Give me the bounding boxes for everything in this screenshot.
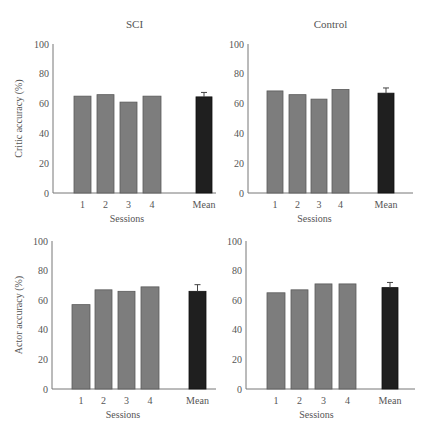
y-tick-label: 40 (38, 324, 48, 335)
figure: SCI0204060801001234MeanSessionsCritic ac… (0, 0, 432, 442)
x-tick-label: 3 (126, 199, 131, 210)
x-tick-label: 2 (101, 395, 106, 406)
y-tick-label: 100 (227, 236, 242, 247)
session-bar-4 (339, 284, 356, 389)
x-tick-label: 2 (297, 395, 302, 406)
session-bar-3 (315, 284, 332, 389)
x-tick-label: Mean (375, 199, 398, 210)
x-tick-label: 1 (80, 199, 85, 210)
mean-bar (189, 291, 206, 389)
chart-panel-bottom-left: 0204060801001234MeanSessionsActor accura… (13, 236, 216, 421)
y-tick-label: 20 (38, 354, 48, 365)
y-tick-label: 40 (234, 128, 244, 139)
x-tick-label: 1 (274, 395, 279, 406)
y-tick-label: 80 (38, 265, 48, 276)
x-tick-label: 4 (338, 199, 343, 210)
y-tick-label: 40 (39, 128, 49, 139)
x-tick-label: 1 (79, 395, 84, 406)
x-tick-label: Mean (193, 199, 216, 210)
y-tick-label: 60 (232, 295, 242, 306)
y-tick-label: 0 (237, 384, 242, 395)
y-tick-label: 40 (232, 324, 242, 335)
chart-canvas: SCI0204060801001234MeanSessionsCritic ac… (0, 0, 432, 442)
y-tick-label: 80 (39, 68, 49, 79)
y-tick-label: 80 (234, 68, 244, 79)
x-axis-title: Sessions (106, 409, 141, 420)
x-tick-label: 3 (321, 395, 326, 406)
mean-bar (378, 93, 394, 193)
session-bar-2 (291, 290, 308, 389)
session-bar-1 (267, 91, 283, 193)
y-tick-label: 80 (232, 265, 242, 276)
y-tick-label: 60 (39, 98, 49, 109)
y-tick-label: 100 (229, 39, 244, 50)
session-bar-3 (311, 99, 327, 193)
y-tick-label: 60 (38, 295, 48, 306)
session-bar-4 (332, 89, 349, 193)
y-tick-label: 60 (234, 98, 244, 109)
session-bar-1 (72, 305, 90, 389)
chart-panel-top-right: Control0204060801001234MeanSessions (229, 18, 413, 224)
y-tick-label: 0 (239, 188, 244, 199)
x-tick-label: 3 (317, 199, 322, 210)
mean-bar (382, 288, 398, 389)
chart-panel-top-left: SCI0204060801001234MeanSessionsCritic ac… (13, 18, 216, 224)
y-tick-label: 100 (34, 39, 49, 50)
y-tick-label: 20 (39, 158, 49, 169)
session-bar-3 (118, 291, 135, 389)
y-tick-label: 20 (234, 158, 244, 169)
x-tick-label: 4 (345, 395, 350, 406)
y-axis-title: Actor accuracy (%) (13, 276, 25, 354)
x-tick-label: 4 (148, 395, 153, 406)
x-tick-label: 2 (295, 199, 300, 210)
x-axis-title: Sessions (297, 213, 332, 224)
x-axis-title: Sessions (110, 213, 145, 224)
x-tick-label: Mean (186, 395, 209, 406)
session-bar-2 (95, 290, 112, 389)
chart-panel-bottom-right: 0204060801001234MeanSessions (227, 236, 415, 421)
x-tick-label: 2 (103, 199, 108, 210)
x-tick-label: 4 (150, 199, 155, 210)
panel-title: Control (314, 18, 348, 30)
y-tick-label: 0 (43, 384, 48, 395)
x-tick-label: Mean (379, 395, 402, 406)
session-bar-4 (143, 96, 161, 193)
panel-title: SCI (126, 18, 143, 30)
x-tick-label: 1 (273, 199, 278, 210)
session-bar-1 (74, 96, 91, 193)
y-tick-label: 100 (33, 236, 48, 247)
session-bar-2 (97, 95, 114, 193)
y-tick-label: 0 (44, 188, 49, 199)
y-axis-title: Critic accuracy (%) (13, 79, 25, 157)
x-axis-title: Sessions (299, 409, 334, 420)
session-bar-1 (267, 293, 285, 389)
y-tick-label: 20 (232, 354, 242, 365)
session-bar-3 (120, 102, 137, 193)
session-bar-2 (289, 95, 306, 193)
mean-bar (196, 97, 212, 193)
x-tick-label: 3 (124, 395, 129, 406)
session-bar-4 (141, 287, 159, 389)
